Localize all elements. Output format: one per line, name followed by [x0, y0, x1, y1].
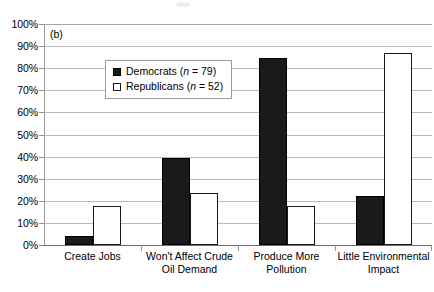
x-category-label: Create Jobs	[38, 250, 147, 263]
gridline	[44, 112, 432, 113]
bar-republicans	[190, 193, 218, 245]
gridline	[44, 90, 432, 91]
x-category-label-line: Little Environmental	[329, 250, 434, 263]
x-category-label-line: Impact	[329, 263, 434, 276]
bar-democrats	[259, 58, 287, 245]
bar-democrats	[356, 196, 384, 245]
y-tick-label: 10%	[0, 218, 38, 228]
x-category-label-line: Produce More	[232, 250, 341, 263]
open-square-icon	[113, 83, 121, 91]
y-tick-label: 60%	[0, 107, 38, 117]
legend-item-democrats: Democrats (n = 79)	[113, 64, 223, 79]
x-category-label-line: Won't Affect Crude	[135, 250, 244, 263]
y-axis: 100%90%80%70%60%50%40%30%20%10%0%	[0, 18, 38, 246]
y-tick-label: 30%	[0, 174, 38, 184]
x-category-label: Produce MorePollution	[232, 250, 341, 276]
scan-artifact	[176, 2, 190, 7]
y-tick-label: 90%	[0, 41, 38, 51]
x-category-label: Little EnvironmentalImpact	[329, 250, 434, 276]
y-tick-label: 20%	[0, 196, 38, 206]
figure-panel-b: 100%90%80%70%60%50%40%30%20%10%0% (b) De…	[0, 0, 434, 292]
gridline	[44, 135, 432, 136]
bar-democrats	[65, 236, 93, 245]
legend: Democrats (n = 79) Republicans (n = 52)	[105, 60, 232, 99]
y-tick-label: 40%	[0, 152, 38, 162]
x-axis-category-labels: Create JobsWon't Affect CrudeOil DemandP…	[44, 250, 432, 290]
gridline	[44, 68, 432, 69]
legend-label-democrats: Democrats (n = 79)	[126, 66, 216, 77]
x-category-label-line: Pollution	[232, 263, 341, 276]
legend-label-republicans: Republicans (n = 52)	[126, 81, 223, 92]
y-tick-label: 80%	[0, 63, 38, 73]
y-tick-label: 70%	[0, 85, 38, 95]
bar-republicans	[287, 206, 315, 245]
y-tick-label: 100%	[0, 19, 38, 29]
plot-area: (b) Democrats (n = 79) Republicans (n = …	[44, 24, 432, 245]
legend-item-republicans: Republicans (n = 52)	[113, 79, 223, 94]
x-category-label-line: Oil Demand	[135, 263, 244, 276]
x-category-label-line: Create Jobs	[38, 250, 147, 263]
filled-square-icon	[113, 68, 121, 76]
gridline	[44, 179, 432, 180]
gridline	[44, 157, 432, 158]
gridline	[44, 24, 432, 25]
y-tick-label: 50%	[0, 130, 38, 140]
x-category-label: Won't Affect CrudeOil Demand	[135, 250, 244, 276]
bar-democrats	[162, 158, 190, 245]
gridline	[44, 46, 432, 47]
bar-republicans	[384, 53, 412, 245]
bar-republicans	[93, 206, 121, 245]
panel-label: (b)	[50, 28, 63, 40]
y-tick-label: 0%	[0, 240, 38, 250]
